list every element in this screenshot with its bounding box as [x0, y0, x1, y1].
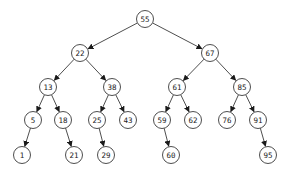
- tree-node-61: 61: [169, 79, 186, 96]
- tree-node-21: 21: [66, 147, 83, 164]
- edge-22-13: [54, 59, 74, 80]
- edge-85-91: [246, 95, 254, 112]
- node-label: 55: [140, 15, 149, 24]
- node-label: 67: [205, 49, 214, 58]
- node-label: 59: [157, 116, 166, 125]
- tree-node-5: 5: [25, 112, 42, 129]
- tree-node-59: 59: [154, 112, 171, 129]
- tree-diagram: 55226713386185518254359627691121296095: [0, 0, 295, 174]
- tree-node-85: 85: [234, 79, 251, 96]
- node-label: 22: [75, 49, 84, 58]
- tree-node-76: 76: [219, 112, 236, 129]
- edge-67-85: [216, 59, 236, 80]
- nodes-layer: 55226713386185518254359627691121296095: [14, 11, 277, 164]
- tree-node-22: 22: [72, 45, 89, 62]
- node-label: 18: [58, 116, 68, 125]
- node-label: 1: [20, 151, 25, 160]
- tree-node-60: 60: [163, 147, 180, 164]
- tree-node-18: 18: [55, 112, 72, 129]
- edge-59-60: [164, 128, 169, 146]
- node-label: 25: [92, 116, 101, 125]
- tree-node-62: 62: [185, 112, 202, 129]
- tree-node-67: 67: [202, 45, 219, 62]
- edge-13-18: [52, 95, 60, 112]
- edge-5-1: [25, 128, 31, 146]
- edge-25-29: [99, 128, 104, 146]
- edge-85-76: [231, 95, 239, 112]
- node-label: 76: [222, 116, 232, 125]
- tree-node-55: 55: [137, 11, 154, 28]
- edge-13-5: [37, 95, 45, 112]
- node-label: 21: [69, 151, 78, 160]
- edge-38-43: [116, 95, 124, 112]
- node-label: 91: [253, 116, 262, 125]
- edge-55-67: [153, 23, 202, 49]
- edge-67-61: [183, 59, 204, 80]
- tree-node-91: 91: [250, 112, 267, 129]
- tree-node-1: 1: [14, 147, 31, 164]
- node-label: 60: [166, 151, 176, 160]
- node-label: 61: [172, 83, 181, 92]
- tree-node-43: 43: [120, 112, 137, 129]
- node-label: 95: [263, 151, 272, 160]
- node-label: 29: [101, 151, 110, 160]
- node-label: 43: [123, 116, 132, 125]
- tree-node-13: 13: [40, 79, 57, 96]
- edge-61-59: [166, 95, 174, 112]
- edge-18-21: [66, 128, 72, 146]
- tree-node-95: 95: [260, 147, 277, 164]
- tree-node-38: 38: [104, 79, 121, 96]
- node-label: 5: [31, 116, 36, 125]
- node-label: 38: [107, 83, 117, 92]
- edge-22-38: [86, 59, 106, 80]
- tree-node-25: 25: [89, 112, 106, 129]
- edge-61-62: [181, 95, 189, 112]
- edge-55-22: [88, 23, 137, 49]
- node-label: 62: [188, 116, 197, 125]
- node-label: 85: [237, 83, 246, 92]
- edge-91-95: [260, 128, 265, 146]
- tree-node-29: 29: [98, 147, 115, 164]
- edge-38-25: [101, 95, 109, 112]
- node-label: 13: [43, 83, 52, 92]
